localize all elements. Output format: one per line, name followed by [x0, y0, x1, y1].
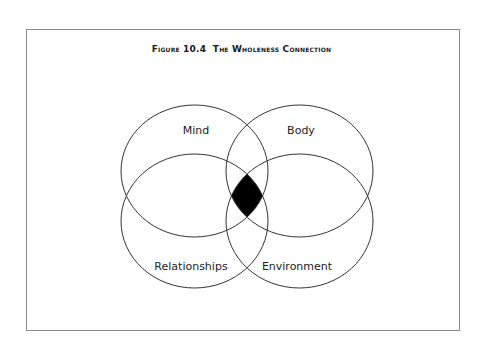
label-body: Body	[287, 124, 315, 137]
label-environment: Environment	[262, 260, 333, 273]
label-relationships: Relationships	[154, 260, 228, 273]
label-mind: Mind	[183, 124, 210, 137]
venn-diagram: Mind Body Relationships Environment	[0, 0, 483, 349]
